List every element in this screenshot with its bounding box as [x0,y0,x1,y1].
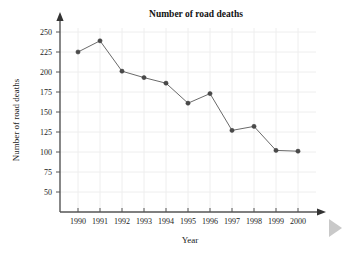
y-axis-title: Number of road deaths [11,78,21,161]
data-point-1998[interactable] [252,124,256,128]
xtick-label-1998: 1998 [246,217,262,226]
xtick-label-1993: 1993 [136,217,152,226]
xtick-label-1997: 1997 [224,217,240,226]
xtick-label-1991: 1991 [92,217,108,226]
data-point-1990[interactable] [76,50,80,54]
chart-title: Number of road deaths [149,9,243,19]
ytick-label-100: 100 [40,148,52,157]
chart-canvas: Number of road deaths 250 225 200 175 15… [0,0,349,254]
xtick-label-1999: 1999 [268,217,284,226]
ytick-label-250: 250 [40,28,52,37]
ytick-label-50: 50 [44,188,52,197]
xtick-label-2000: 2000 [290,217,306,226]
xtick-label-1995: 1995 [180,217,196,226]
ytick-label-150: 150 [40,108,52,117]
ytick-label-75: 75 [44,168,52,177]
xtick-label-1994: 1994 [158,217,174,226]
ytick-label-175: 175 [40,88,52,97]
y-axis-arrowhead-icon [56,12,63,21]
ytick-label-125: 125 [40,128,52,137]
x-axis-arrowhead-icon [317,208,326,215]
ytick-label-200: 200 [40,68,52,77]
xtick-label-1996: 1996 [202,217,218,226]
data-point-1995[interactable] [186,101,190,105]
x-tick-labels-group: 1990 1991 1992 1993 1994 1995 1996 1997 … [70,217,306,226]
gridlines-group [60,28,316,212]
data-point-1996[interactable] [208,92,212,96]
y-tick-labels-group: 250 225 200 175 150 125 100 75 50 [40,28,52,197]
data-point-1993[interactable] [142,76,146,80]
data-point-2000[interactable] [296,149,300,153]
xtick-label-1990: 1990 [70,217,86,226]
road-deaths-line-chart: Number of road deaths 250 225 200 175 15… [0,0,349,254]
xtick-label-1992: 1992 [114,217,130,226]
data-point-1999[interactable] [274,148,278,152]
data-point-1991[interactable] [98,39,102,43]
next-slide-arrow-icon[interactable] [329,219,342,237]
data-point-1997[interactable] [230,128,234,132]
ytick-label-225: 225 [40,48,52,57]
data-point-1992[interactable] [120,69,124,73]
x-axis-title: Year [182,235,199,245]
data-point-1994[interactable] [164,81,168,85]
